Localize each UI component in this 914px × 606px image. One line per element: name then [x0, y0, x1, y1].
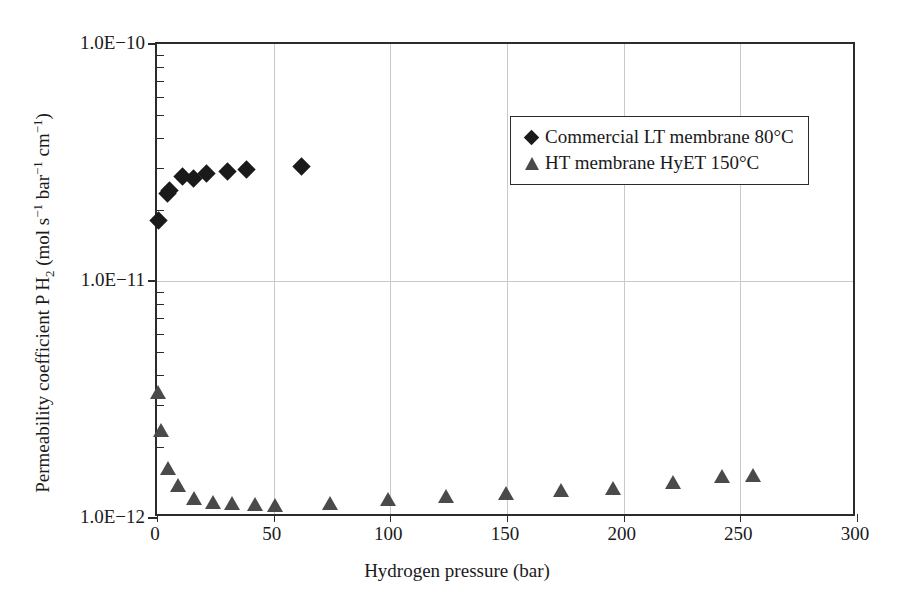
triangle-marker-icon — [186, 491, 202, 505]
triangle-marker-icon — [224, 496, 240, 510]
gridline-vertical — [390, 44, 391, 514]
y-axis-minor-tick — [157, 375, 164, 376]
legend-item-ht-hyet: HT membrane HyET 150°C — [523, 150, 794, 176]
x-axis-tick-label: 150 — [465, 524, 545, 543]
diamond-marker-icon — [523, 127, 545, 147]
triangle-marker-icon — [714, 469, 730, 483]
x-axis-tick-label: 250 — [698, 524, 778, 543]
y-axis-minor-tick — [157, 352, 164, 353]
y-axis-minor-tick — [157, 292, 164, 293]
x-axis-tick — [390, 514, 391, 522]
triangle-marker-icon — [553, 483, 569, 497]
triangle-marker-icon — [438, 489, 454, 503]
y-axis-tick — [148, 280, 157, 282]
triangle-marker-icon — [170, 478, 186, 492]
x-axis-tick — [274, 514, 275, 522]
x-axis-tick-label: 200 — [582, 524, 662, 543]
y-axis-minor-tick — [157, 405, 164, 406]
diamond-marker-icon — [149, 211, 167, 229]
legend-label-ht-hyet: HT membrane HyET 150°C — [545, 150, 759, 176]
y-axis-minor-tick — [157, 67, 164, 68]
y-axis-tick — [148, 517, 157, 519]
triangle-marker-icon — [380, 492, 396, 506]
x-axis-tick — [157, 514, 158, 522]
y-axis-minor-tick — [157, 81, 164, 82]
y-axis-minor-tick — [157, 115, 164, 116]
triangle-marker-icon — [160, 461, 176, 475]
y-axis-minor-tick — [157, 97, 164, 98]
y-axis-title: Permeability coefficient P H2 (mol s−1 b… — [18, 0, 58, 606]
triangle-marker-icon — [150, 385, 166, 399]
gridline-vertical — [740, 44, 741, 514]
y-axis-minor-tick — [157, 55, 164, 56]
diamond-marker-icon — [292, 157, 310, 175]
triangle-marker-icon — [745, 468, 761, 482]
triangle-marker-icon — [153, 423, 169, 437]
x-axis-title: Hydrogen pressure (bar) — [0, 560, 914, 582]
y-axis-minor-tick — [157, 447, 164, 448]
x-axis-tick — [624, 514, 625, 522]
gridline-vertical — [624, 44, 625, 514]
gridline-horizontal — [157, 281, 853, 282]
y-axis-minor-tick — [157, 138, 164, 139]
legend-label-commercial-lt: Commercial LT membrane 80°C — [545, 124, 794, 150]
x-axis-tick — [857, 514, 858, 522]
y-axis-minor-tick — [157, 168, 164, 169]
triangle-marker-icon — [523, 153, 545, 173]
triangle-marker-icon — [205, 495, 221, 509]
x-axis-tick — [740, 514, 741, 522]
y-axis-minor-tick — [157, 304, 164, 305]
triangle-marker-icon — [267, 498, 283, 512]
y-axis-minor-tick — [157, 334, 164, 335]
x-axis-tick-label: 50 — [232, 524, 312, 543]
y-axis-tick — [148, 43, 157, 45]
x-axis-tick — [507, 514, 508, 522]
legend-item-commercial-lt: Commercial LT membrane 80°C — [523, 124, 794, 150]
triangle-marker-icon — [605, 481, 621, 495]
gridline-vertical — [274, 44, 275, 514]
x-axis-tick-label: 100 — [348, 524, 428, 543]
chart-legend: Commercial LT membrane 80°C HT membrane … — [510, 116, 809, 185]
triangle-marker-icon — [322, 496, 338, 510]
plot-area — [155, 42, 855, 516]
triangle-marker-icon — [665, 475, 681, 489]
gridline-vertical — [507, 44, 508, 514]
triangle-marker-icon — [247, 497, 263, 511]
diamond-marker-icon — [238, 160, 256, 178]
triangle-marker-icon — [498, 486, 514, 500]
y-axis-minor-tick — [157, 318, 164, 319]
permeability-chart-figure: 0501001502002503001.0E−101.0E−111.0E−12 … — [0, 0, 914, 606]
x-axis-tick-label: 300 — [815, 524, 895, 543]
diamond-marker-icon — [218, 162, 236, 180]
